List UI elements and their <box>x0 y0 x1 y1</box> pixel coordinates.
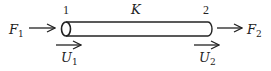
node-2-label: 2 <box>203 3 209 17</box>
force-1-label: F1 <box>8 22 24 39</box>
bar-element-diagram: 1 K 2 F1 F2 U1 U2 <box>0 0 271 71</box>
node-1-label: 1 <box>63 3 69 17</box>
bar-element <box>62 22 213 36</box>
element-label: K <box>130 2 142 17</box>
displacement-1-label: U1 <box>61 50 78 67</box>
end-face-ellipse <box>62 22 71 36</box>
displacement-2-label: U2 <box>199 50 216 67</box>
force-2-label: F2 <box>246 22 262 39</box>
